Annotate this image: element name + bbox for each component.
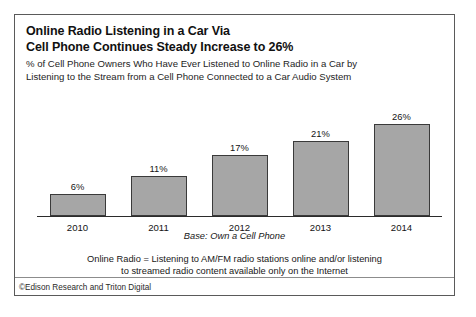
credit-divider	[15, 277, 454, 278]
copyright-credit: ©Edison Research and Triton Digital	[19, 283, 151, 292]
definition-note: Online Radio = Listening to AM/FM radio …	[15, 253, 454, 278]
base-note: Base: Own a Cell Phone	[15, 231, 454, 241]
x-axis-line	[37, 216, 442, 217]
subtitle-block: % of Cell Phone Owners Who Have Ever Lis…	[26, 58, 446, 83]
bar-value-label: 21%	[311, 128, 330, 139]
bar-group-2012: 17%	[199, 111, 280, 216]
bar-group-2011: 11%	[118, 111, 199, 216]
chart-figure: Online Radio Listening in a Car Via Cell…	[14, 14, 455, 296]
bar-rect	[293, 141, 349, 216]
subtitle-line-1: % of Cell Phone Owners Who Have Ever Lis…	[26, 58, 446, 71]
bar-chart-plot-area: 6% 11% 17% 21% 26% 2010 20	[15, 111, 454, 227]
page-title-line-2: Cell Phone Continues Steady Increase to …	[26, 39, 446, 55]
bar-value-label: 17%	[230, 142, 249, 153]
bar-series: 6% 11% 17% 21% 26%	[37, 111, 442, 216]
bar-rect	[374, 124, 430, 216]
bar-value-label: 11%	[149, 163, 167, 174]
bar-rect	[212, 155, 268, 216]
bar-rect	[50, 194, 106, 216]
definition-note-line-2: to streamed radio content available only…	[15, 265, 454, 277]
bar-rect	[131, 176, 187, 216]
bar-group-2010: 6%	[37, 111, 118, 216]
definition-note-line-1: Online Radio = Listening to AM/FM radio …	[15, 253, 454, 265]
bar-value-label: 6%	[71, 181, 85, 192]
bar-group-2014: 26%	[361, 111, 442, 216]
subtitle-line-2: Listening to the Stream from a Cell Phon…	[26, 71, 446, 84]
title-block: Online Radio Listening in a Car Via Cell…	[26, 23, 446, 83]
bar-value-label: 26%	[392, 111, 411, 122]
bar-group-2013: 21%	[280, 111, 361, 216]
page-title-line-1: Online Radio Listening in a Car Via	[26, 23, 446, 39]
